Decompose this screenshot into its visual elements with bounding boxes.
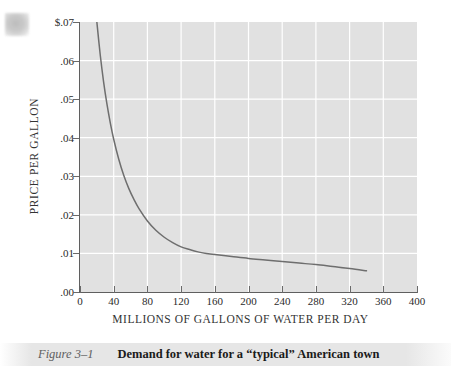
- x-tick-label: 0: [77, 295, 83, 307]
- figure-number-label: Figure 3–1: [38, 347, 93, 362]
- figure-chart: PRICE PER GALLON .00.01.02.03.04.05.06$.…: [0, 0, 451, 340]
- x-tick-mark: [316, 286, 317, 293]
- x-tick-label: 120: [173, 295, 190, 307]
- x-tick-mark: [249, 286, 250, 293]
- x-tick-label: 80: [142, 295, 153, 307]
- y-axis-tick-labels: .00.01.02.03.04.05.06$.07: [40, 22, 74, 292]
- x-tick-label: 400: [409, 295, 426, 307]
- y-axis-title: PRICE PER GALLON: [28, 76, 40, 236]
- vertical-gridlines: [114, 22, 384, 292]
- y-tick-label: .03: [40, 170, 74, 182]
- plot-area: [80, 22, 417, 292]
- y-tick-label: .04: [40, 132, 74, 144]
- x-tick-label: 320: [341, 295, 358, 307]
- figure-caption-title: Demand for water for a “typical” America…: [117, 347, 379, 362]
- x-tick-label: 160: [207, 295, 224, 307]
- figure-caption-bar: Figure 3–1 Demand for water for a “typic…: [0, 343, 451, 366]
- x-tick-mark: [350, 286, 351, 293]
- x-tick-mark: [181, 286, 182, 293]
- y-axis-line: [79, 22, 80, 293]
- y-tick-label: .02: [40, 209, 74, 221]
- x-tick-mark: [80, 286, 81, 293]
- y-tick-label: .00: [40, 286, 74, 298]
- x-tick-mark: [383, 286, 384, 293]
- x-tick-label: 240: [274, 295, 291, 307]
- x-axis-title: MILLIONS OF GALLONS OF WATER PER DAY: [0, 313, 451, 325]
- y-tick-label: .05: [40, 93, 74, 105]
- demand-curve-line: [97, 22, 367, 271]
- x-tick-mark: [417, 286, 418, 293]
- y-tick-label: .06: [40, 55, 74, 67]
- y-tick-label: .01: [40, 247, 74, 259]
- plot-svg: [80, 22, 417, 292]
- x-tick-label: 40: [108, 295, 119, 307]
- y-tick-label: $.07: [40, 16, 74, 28]
- x-tick-mark: [147, 286, 148, 293]
- x-tick-label: 360: [375, 295, 392, 307]
- x-tick-mark: [114, 286, 115, 293]
- x-tick-label: 200: [240, 295, 257, 307]
- x-tick-label: 280: [308, 295, 325, 307]
- x-tick-mark: [215, 286, 216, 293]
- x-tick-mark: [282, 286, 283, 293]
